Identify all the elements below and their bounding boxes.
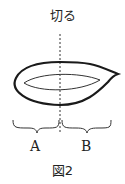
label-a: A: [30, 138, 40, 154]
brace-b: [62, 120, 111, 133]
label-b: B: [81, 138, 91, 154]
seed-outline: [15, 62, 118, 105]
seed-diagram: [0, 0, 125, 184]
seed-inner-line: [24, 74, 100, 89]
figure-caption: 図2: [0, 160, 125, 179]
brace-a: [13, 120, 59, 133]
